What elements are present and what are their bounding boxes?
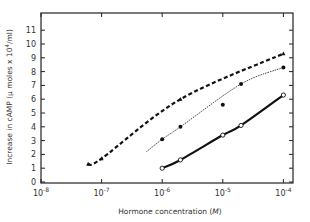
x-tick-label: 10-6 [154,186,170,198]
filled-circle-marker [178,125,182,129]
filled-circle-marker [239,82,243,86]
y-tick-label: 11 [26,26,36,35]
chart: 10-810-710-610-510-401234567891011 Hormo… [0,0,310,222]
series-line [88,54,283,165]
y-tick-label: 2 [31,150,36,159]
x-axis-title: Hormone concentration (M) [118,207,222,216]
series-triangle [86,51,285,165]
open-circle-marker [221,133,225,137]
filled-circle-marker [160,137,164,141]
triangle-marker [281,51,285,55]
open-circle-marker [239,123,243,127]
x-tick-label: 10-4 [275,186,291,198]
y-tick-label: 6 [31,95,36,104]
x-tick-label: 10-7 [94,186,110,198]
y-tick-label: 8 [31,68,36,77]
y-tick-label: 4 [31,123,36,132]
x-tick-label: 10-8 [33,186,49,198]
filled-circle-marker [281,65,285,69]
filled-circle-marker [221,103,225,107]
y-tick-label: 9 [31,54,36,63]
y-tick-label: 7 [31,81,36,90]
y-tick-label: 0 [31,178,36,187]
y-tick-label: 10 [26,40,36,49]
plot-area: 10-810-710-610-510-401234567891011 Hormo… [0,0,310,222]
open-circle-marker [178,158,182,162]
y-tick-label: 3 [31,137,36,146]
open-circle-marker [160,166,164,170]
series-group [86,51,285,170]
open-circle-marker [281,93,285,97]
axes-frame [41,13,293,183]
axes [41,13,293,183]
y-axis-title: Increase in cAMP (μ moles x 104/ml) [4,29,14,165]
y-tick-label: 5 [31,109,36,118]
ticks: 10-810-710-610-510-401234567891011 [26,13,293,198]
y-tick-label: 1 [31,164,36,173]
x-tick-label: 10-5 [215,186,231,198]
